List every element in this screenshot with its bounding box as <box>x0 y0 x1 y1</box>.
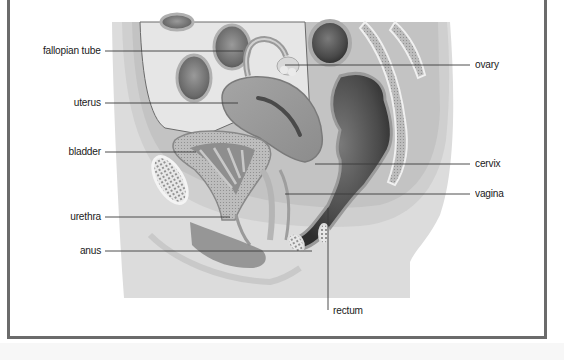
label-vagina: vagina <box>475 187 504 199</box>
label-ovary: ovary <box>475 58 499 70</box>
label-rectum: rectum <box>333 304 363 316</box>
label-uterus: uterus <box>74 96 101 108</box>
label-fallopian-tube: fallopian tube <box>43 44 101 56</box>
label-anus: anus <box>80 244 101 256</box>
label-urethra: urethra <box>70 210 101 222</box>
label-cervix: cervix <box>475 157 500 169</box>
label-bladder: bladder <box>68 145 101 157</box>
